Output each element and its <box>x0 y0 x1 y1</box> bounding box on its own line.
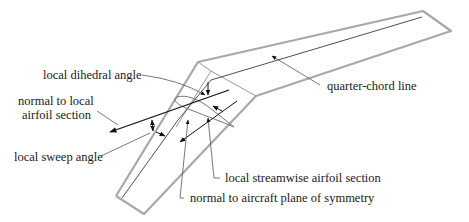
label-normal-airfoil-2: airfoil section <box>22 108 92 122</box>
wing-diagram: local dihedral angle normal to local air… <box>0 0 469 222</box>
dihedral-leader <box>142 75 205 95</box>
label-quarter-chord: quarter-chord line <box>327 79 417 93</box>
dihedral-arrow-bottom <box>213 106 222 111</box>
normal-symmetry-leader <box>180 120 188 198</box>
airfoil-section <box>175 96 234 127</box>
quarter-chord-leader <box>272 56 320 85</box>
label-normal-symmetry: normal to aircraft plane of symmetry <box>190 191 375 205</box>
normal-airfoil-leader <box>97 111 118 125</box>
sweep-arrow-2 <box>156 132 165 136</box>
label-dihedral: local dihedral angle <box>43 68 142 82</box>
label-streamwise: local streamwise airfoil section <box>225 171 382 185</box>
streamwise-leader <box>208 118 220 178</box>
label-normal-airfoil-1: normal to local <box>18 94 94 108</box>
normal-airfoil-arrow <box>110 90 229 132</box>
label-sweep: local sweep angle <box>14 150 103 164</box>
sweep-arrow <box>152 120 153 131</box>
